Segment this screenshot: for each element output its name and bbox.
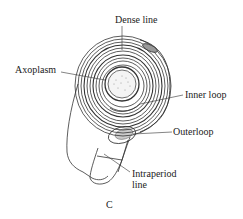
label-axoplasm: Axoplasm — [15, 64, 56, 75]
label-dense-line: Dense line — [115, 14, 158, 25]
label-inner-loop: Inner loop — [185, 89, 226, 100]
myelin-sheath-diagram — [0, 0, 243, 219]
label-intraperiod-line-2: line — [132, 179, 147, 190]
label-outer-loop: Outerloop — [173, 126, 214, 137]
panel-label: C — [106, 199, 113, 210]
label-intraperiod-line-1: Intraperiod — [132, 168, 176, 179]
